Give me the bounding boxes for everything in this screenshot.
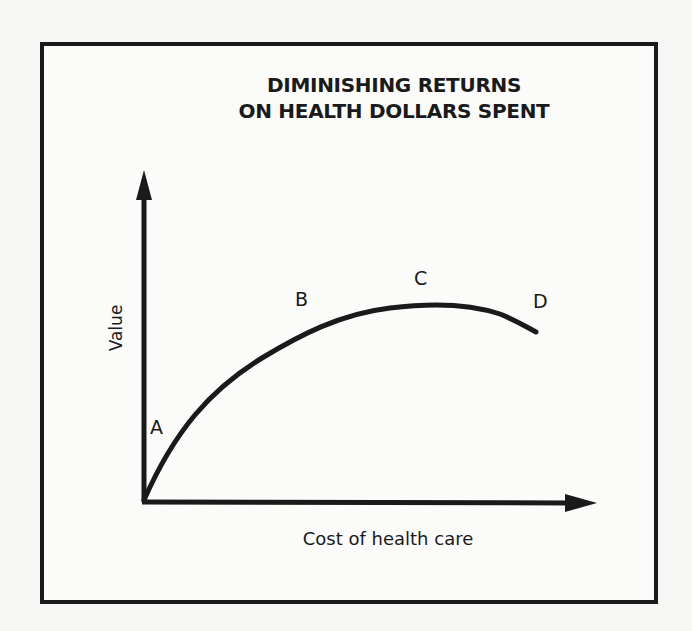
x-axis: [142, 494, 597, 512]
value-curve: [144, 305, 536, 500]
point-label-a: A: [150, 416, 163, 438]
point-label-d: D: [533, 290, 548, 312]
y-axis-arrow-icon: [136, 170, 152, 200]
point-label-b: B: [295, 288, 308, 310]
y-axis-label: Value: [106, 305, 126, 352]
x-axis-label: Cost of health care: [303, 528, 474, 549]
x-axis-arrow-icon: [565, 494, 597, 512]
chart-plot: A B C D Value Cost of health care: [0, 0, 692, 631]
point-label-c: C: [414, 267, 427, 289]
y-axis: [136, 170, 152, 502]
